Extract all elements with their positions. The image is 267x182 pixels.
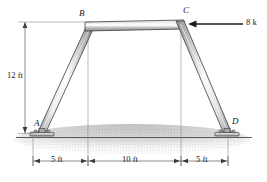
arrow-span2-left	[89, 159, 95, 163]
arrow-span1-right	[81, 159, 87, 163]
arrow-span3-left	[182, 159, 188, 163]
load-arrow-head	[188, 20, 197, 27]
support-d-bolt-right	[232, 130, 235, 133]
member-cd-highlight	[181, 24, 229, 132]
support-a-pin-block	[39, 129, 45, 133]
dimension-label-span-1: 5 ft	[51, 155, 63, 164]
support-d-pin-block	[224, 129, 230, 133]
dimension-label-height: 12 ft	[7, 71, 23, 80]
joint-label-c: C	[183, 6, 189, 15]
joint-label-b: B	[79, 9, 85, 18]
arrow-span3-right	[221, 159, 227, 163]
arrow-span1-left	[34, 159, 40, 163]
support-d-bolt-left	[219, 130, 222, 133]
dimension-label-span-2: 10 ft	[122, 155, 138, 164]
dimension-height-arrow-top	[23, 22, 28, 28]
joint-label-a: A	[34, 119, 40, 128]
dimension-label-span-3: 5 ft	[196, 155, 208, 164]
support-a-bolt-right	[47, 130, 50, 133]
ground-stipple-texture	[20, 128, 244, 154]
ground-region	[14, 124, 252, 156]
load-arrow-8k	[188, 20, 243, 27]
frame-structure	[37, 20, 232, 134]
member-ab-highlight	[42, 27, 91, 132]
support-a-bolt-left	[34, 130, 37, 133]
load-label-8k: 8 k	[246, 18, 257, 27]
joint-label-d: D	[232, 117, 239, 126]
member-bc-top-beam	[85, 20, 184, 31]
dimension-height-arrow-bottom	[23, 127, 28, 133]
arrow-span2-right	[174, 159, 180, 163]
